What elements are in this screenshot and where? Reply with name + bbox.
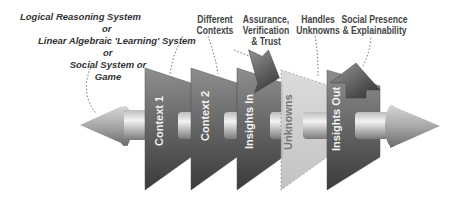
panel-label-context-1: Context 1 (153, 96, 165, 146)
pointer-unknowns (315, 36, 318, 76)
right-cone-icon (385, 105, 440, 148)
panel-label-insights-in: Insights In (243, 94, 255, 149)
arrow-diagram: Context 1 Context 2 Insights In Unknowns… (0, 0, 462, 201)
pointer-context-1 (170, 36, 183, 74)
panel-label-insights-out: Insights Out (330, 87, 342, 152)
panel-label-context-2: Context 2 (199, 91, 211, 141)
pointer-system (86, 65, 96, 113)
panel-label-unknowns: Unknowns (282, 94, 294, 150)
pointer-social (363, 38, 371, 66)
pointer-context-2 (208, 36, 218, 74)
left-cone-icon (80, 106, 148, 146)
